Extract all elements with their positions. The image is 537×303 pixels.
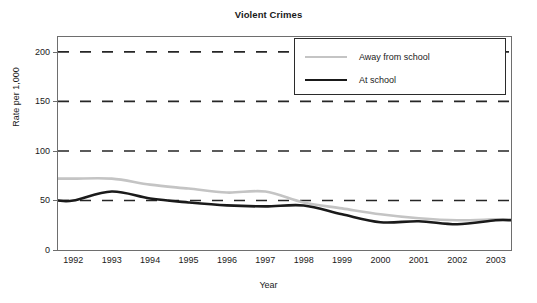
x-tick-label: 1992 [53,255,93,265]
x-tick-label: 1997 [245,255,285,265]
chart-title: Violent Crimes [0,9,537,20]
x-tick-label: 1998 [284,255,324,265]
chart-figure: Violent Crimes Rate per 1,000 0501001502… [0,0,537,303]
x-axis-title: Year [0,280,537,290]
legend-label: At school [359,75,396,85]
y-tick-mark [53,101,57,102]
x-tick-label: 2002 [437,255,477,265]
x-tick-label: 1994 [130,255,170,265]
chart-legend: Away from schoolAt school [294,38,506,95]
x-tick-label: 1993 [92,255,132,265]
x-tick-label: 2003 [476,255,516,265]
y-tick-label: 50 [20,195,50,205]
legend-entry: At school [305,72,396,88]
y-tick-mark [53,52,57,53]
y-tick-mark [53,200,57,201]
x-tick-label: 1996 [207,255,247,265]
y-tick-label: 150 [20,96,50,106]
legend-entry: Away from school [305,49,430,65]
x-tick-label: 2000 [360,255,400,265]
legend-line-swatch [305,56,347,58]
y-tick-label: 200 [20,47,50,57]
y-tick-mark [53,151,57,152]
y-tick-label: 0 [20,245,50,255]
x-tick-label: 1995 [169,255,209,265]
y-tick-mark [53,250,57,251]
series-line-1 [58,178,511,220]
x-tick-label: 2001 [399,255,439,265]
x-tick-label: 1999 [322,255,362,265]
legend-line-swatch [305,79,347,81]
legend-label: Away from school [359,52,430,62]
y-tick-label: 100 [20,146,50,156]
